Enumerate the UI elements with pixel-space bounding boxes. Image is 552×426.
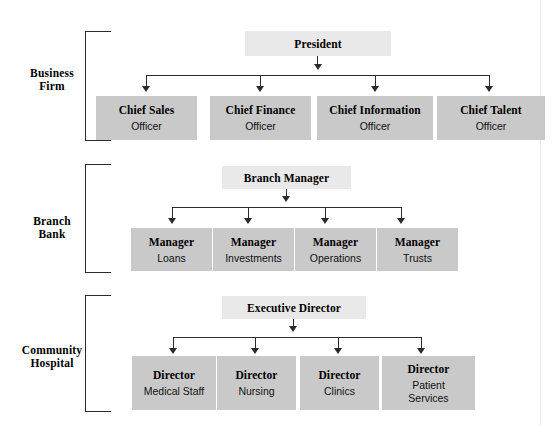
node-manager-investments[interactable]: Manager Investments [213,228,294,271]
section-business-firm: Business Firm President Chief Sales Offi… [0,0,552,150]
connector-bus [172,207,401,208]
connector-bus [173,337,421,338]
node-chief-talent-officer[interactable]: Chief Talent Officer [437,96,545,140]
node-title: Director [153,368,195,382]
connector-bus [146,75,489,76]
arrowhead-drop-1 [142,86,150,92]
node-subtitle: Officer [245,120,276,133]
node-director-patient-services[interactable]: Director Patient Services [382,356,475,410]
group-bracket-community-hospital [85,295,111,412]
arrowhead-drop-3 [334,348,342,354]
arrowhead-root-stem [289,326,297,332]
section-branch-bank: Branch Bank Branch Manager Manager Loans… [0,150,552,285]
node-director-nursing[interactable]: Director Nursing [217,356,296,410]
node-director-medical-staff[interactable]: Director Medical Staff [132,356,216,410]
node-subtitle: Nursing [238,385,274,398]
arrowhead-drop-3 [371,86,379,92]
arrowhead-drop-4 [485,86,493,92]
node-subtitle: Officer [360,120,391,133]
arrowhead-drop-2 [251,348,259,354]
node-title: Chief Information [329,103,420,117]
arrowhead-drop-3 [321,218,329,224]
node-president[interactable]: President [245,31,391,56]
node-chief-information-officer[interactable]: Chief Information Officer [317,96,433,140]
arrowhead-drop-4 [397,218,405,224]
group-label-community-hospital: Community Hospital [16,344,88,370]
arrowhead-drop-1 [168,218,176,224]
node-subtitle: Trusts [403,252,432,265]
node-manager-loans[interactable]: Manager Loans [131,228,212,271]
node-subtitle: Investments [225,252,282,265]
node-director-clinics[interactable]: Director Clinics [300,356,379,410]
group-label-line-1: Branch [22,215,82,228]
node-branch-manager[interactable]: Branch Manager [222,166,351,189]
group-label-line-1: Business [22,67,82,80]
node-chief-finance-officer[interactable]: Chief Finance Officer [210,96,311,140]
node-subtitle: Patient Services [408,379,448,404]
node-title: Chief Finance [226,103,296,117]
node-title: Branch Manager [244,171,329,185]
node-title: Manager [149,235,194,249]
node-title: Manager [313,235,358,249]
group-bracket-branch-bank [85,164,111,273]
node-chief-sales-officer[interactable]: Chief Sales Officer [96,96,197,140]
arrowhead-drop-2 [256,86,264,92]
node-title: Director [318,368,360,382]
node-subtitle: Officer [476,120,507,133]
node-manager-operations[interactable]: Manager Operations [295,228,376,271]
section-community-hospital: Community Hospital Executive Director Di… [0,285,552,426]
arrowhead-drop-2 [244,218,252,224]
org-chart-page: Business Firm President Chief Sales Offi… [0,0,552,426]
node-subtitle: Clinics [324,385,355,398]
group-label-line-1: Community [16,344,88,357]
arrowhead-drop-1 [169,348,177,354]
node-title: President [294,37,341,51]
group-label-line-2: Firm [22,80,82,93]
group-label-branch-bank: Branch Bank [22,215,82,241]
node-title: Manager [395,235,440,249]
arrowhead-root-stem [314,64,322,70]
node-title: Manager [231,235,276,249]
node-title: Chief Talent [460,103,522,117]
node-title: Director [235,368,277,382]
arrowhead-drop-4 [417,348,425,354]
node-subtitle: Operations [310,252,361,265]
node-title: Executive Director [247,301,341,315]
group-label-business-firm: Business Firm [22,67,82,93]
node-subtitle: Loans [157,252,186,265]
node-subtitle: Medical Staff [144,385,205,398]
node-title: Chief Sales [119,103,175,117]
group-label-line-2: Hospital [16,357,88,370]
node-manager-trusts[interactable]: Manager Trusts [377,228,458,271]
node-executive-director[interactable]: Executive Director [222,296,366,319]
arrowhead-root-stem [282,196,290,202]
node-subtitle: Officer [131,120,162,133]
node-title: Director [407,362,449,376]
group-label-line-2: Bank [22,228,82,241]
